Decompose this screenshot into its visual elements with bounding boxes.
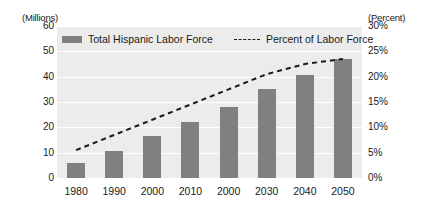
right-axis-tick-label: 25%: [368, 46, 388, 56]
left-axis-tick-label: 20: [43, 122, 54, 132]
x-axis-tick-label: 1990: [95, 186, 133, 197]
left-axis-tick-label: 10: [43, 148, 54, 158]
left-axis-tick-label: 50: [43, 46, 54, 56]
x-axis-tick-label: 2040: [286, 186, 324, 197]
x-axis-tick-label: 2000: [210, 186, 248, 197]
x-axis-tick-label: 2050: [324, 186, 362, 197]
x-axis-tick-label: 2000: [133, 186, 171, 197]
right-axis-tick-label: 15%: [368, 97, 388, 107]
left-axis-tick-label: 60: [43, 21, 54, 31]
x-axis-tick-label: 1980: [57, 186, 95, 197]
x-axis-tick-label: 2030: [248, 186, 286, 197]
trend-line: [76, 59, 343, 150]
plot-area: [57, 26, 362, 178]
legend-label: Percent of Labor Force: [266, 33, 373, 45]
legend-item-total-hispanic-labor-force: Total Hispanic Labor Force: [62, 33, 213, 45]
chart-legend: Total Hispanic Labor Force Percent of La…: [62, 33, 373, 45]
legend-item-percent-of-labor-force: Percent of Labor Force: [234, 33, 373, 45]
left-axis-tick-label: 40: [43, 72, 54, 82]
right-axis-tick-label: 10%: [368, 122, 388, 132]
x-axis-tick-label: 2010: [171, 186, 209, 197]
bar-swatch-icon: [62, 36, 82, 43]
chart-container: (Millions) (Percent) 6050403020100 30%25…: [0, 0, 422, 220]
left-axis-tick-label: 0: [48, 173, 54, 183]
right-axis-tick-label: 30%: [368, 21, 388, 31]
trend-line-series: [57, 26, 362, 178]
legend-label: Total Hispanic Labor Force: [88, 33, 213, 45]
right-axis-tick-label: 20%: [368, 72, 388, 82]
dashed-line-swatch-icon: [234, 39, 260, 40]
left-axis-tick-label: 30: [43, 97, 54, 107]
right-axis-tick-label: 5%: [368, 148, 382, 158]
right-axis-tick-label: 0%: [368, 173, 382, 183]
